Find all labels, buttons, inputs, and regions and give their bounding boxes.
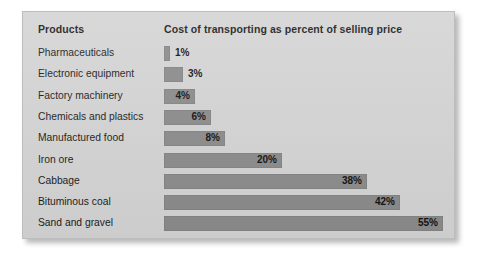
row-category-label: Pharmaceuticals [38, 47, 114, 58]
bar-zone: 38% [164, 174, 450, 189]
row-category-label: Factory machinery [38, 90, 123, 101]
chart-row: Bituminous coal42% [23, 194, 454, 215]
bar-value-label: 6% [164, 111, 211, 122]
column-header-products: Products [38, 23, 84, 35]
bar-zone: 8% [164, 131, 450, 146]
row-category-label: Bituminous coal [38, 196, 111, 207]
chart-row: Iron ore20% [23, 152, 454, 173]
bar-value-label: 42% [164, 196, 400, 207]
bar-zone: 20% [164, 153, 450, 168]
chart-row: Manufactured food8% [23, 130, 454, 151]
row-category-label: Sand and gravel [38, 217, 113, 228]
bar-value-label: 20% [164, 154, 282, 165]
chart-row: Cabbage38% [23, 173, 454, 194]
chart-card: Products Cost of transporting as percent… [22, 11, 455, 239]
chart-row: Sand and gravel55% [23, 215, 454, 236]
bar-value-label: 8% [164, 132, 225, 143]
bar-zone: 6% [164, 110, 450, 125]
bar-value-label: 3% [188, 68, 202, 79]
row-category-label: Manufactured food [38, 132, 124, 143]
bar [164, 46, 170, 61]
bar-zone: 4% [164, 89, 450, 104]
bar-value-label: 1% [175, 47, 189, 58]
bar-value-label: 38% [164, 175, 367, 186]
chart-row: Electronic equipment3% [23, 66, 454, 87]
bar-zone: 3% [164, 67, 450, 82]
bar-zone: 1% [164, 46, 450, 61]
bar-value-label: 55% [164, 217, 443, 228]
row-category-label: Chemicals and plastics [38, 111, 143, 122]
bar-value-label: 4% [164, 90, 195, 101]
bar-zone: 42% [164, 195, 450, 210]
row-category-label: Iron ore [38, 154, 74, 165]
row-category-label: Electronic equipment [38, 68, 134, 79]
chart-row: Factory machinery4% [23, 88, 454, 109]
chart-header-row: Products Cost of transporting as percent… [23, 23, 454, 41]
row-category-label: Cabbage [38, 175, 80, 186]
chart-row: Chemicals and plastics6% [23, 109, 454, 130]
bar [164, 67, 183, 82]
column-header-value: Cost of transporting as percent of selli… [164, 23, 402, 35]
bar-zone: 55% [164, 216, 450, 231]
chart-row: Pharmaceuticals1% [23, 45, 454, 66]
chart-inner: Products Cost of transporting as percent… [23, 12, 454, 238]
